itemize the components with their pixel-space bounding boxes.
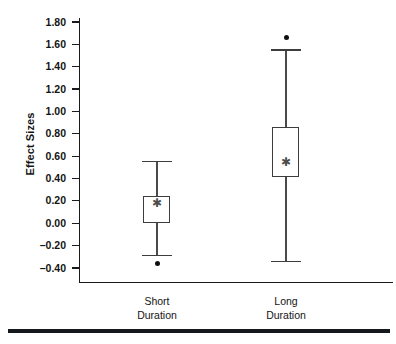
category-label-short-duration: ShortDuration xyxy=(97,295,217,322)
boxplot-figure: Effect Sizes 1.801.601.401.201.000.800.6… xyxy=(0,0,396,344)
y-tick-label: –0.20 xyxy=(6,240,66,251)
y-tick-label: 1.40 xyxy=(6,61,66,72)
y-tick-label: 0.00 xyxy=(6,218,66,229)
y-tick-mark xyxy=(72,245,79,246)
y-tick-label: 0.40 xyxy=(6,173,66,184)
plot-area: 1.801.601.401.201.000.800.600.400.200.00… xyxy=(0,0,396,344)
category-label-line1: Long xyxy=(226,295,346,309)
y-tick-mark xyxy=(72,223,79,224)
y-tick-mark xyxy=(72,44,79,45)
whisker-cap-lower xyxy=(271,261,301,262)
y-tick-mark xyxy=(72,21,79,22)
y-tick-mark xyxy=(72,156,79,157)
category-label-line2: Duration xyxy=(226,309,346,323)
outlier-dot xyxy=(284,35,289,40)
whisker-cap-upper xyxy=(142,161,172,162)
category-label-long-duration: LongDuration xyxy=(226,295,346,322)
y-tick-label: 1.60 xyxy=(6,39,66,50)
whisker-cap-lower xyxy=(142,255,172,256)
y-tick-mark xyxy=(72,133,79,134)
y-tick-mark xyxy=(72,66,79,67)
y-tick-label: 0.80 xyxy=(6,128,66,139)
y-tick-label: 1.00 xyxy=(6,106,66,117)
y-axis-line xyxy=(79,18,80,283)
bottom-rule xyxy=(8,329,390,333)
y-tick-label: 0.20 xyxy=(6,195,66,206)
outlier-dot xyxy=(155,261,160,266)
y-tick-mark xyxy=(72,200,79,201)
y-tick-label: 1.80 xyxy=(6,17,66,28)
x-axis-line xyxy=(79,282,393,283)
y-tick-label: –0.40 xyxy=(6,263,66,274)
box-iqr-rect xyxy=(272,127,299,177)
category-label-line1: Short xyxy=(97,295,217,309)
y-tick-mark xyxy=(72,178,79,179)
y-tick-label: 1.20 xyxy=(6,84,66,95)
whisker-cap-upper xyxy=(271,49,301,50)
category-label-line2: Duration xyxy=(97,309,217,323)
y-tick-mark xyxy=(72,88,79,89)
mean-marker: ✱ xyxy=(279,156,293,168)
y-tick-label: 0.60 xyxy=(6,151,66,162)
y-tick-mark xyxy=(72,111,79,112)
y-tick-mark xyxy=(72,267,79,268)
mean-marker: ✱ xyxy=(150,197,164,209)
